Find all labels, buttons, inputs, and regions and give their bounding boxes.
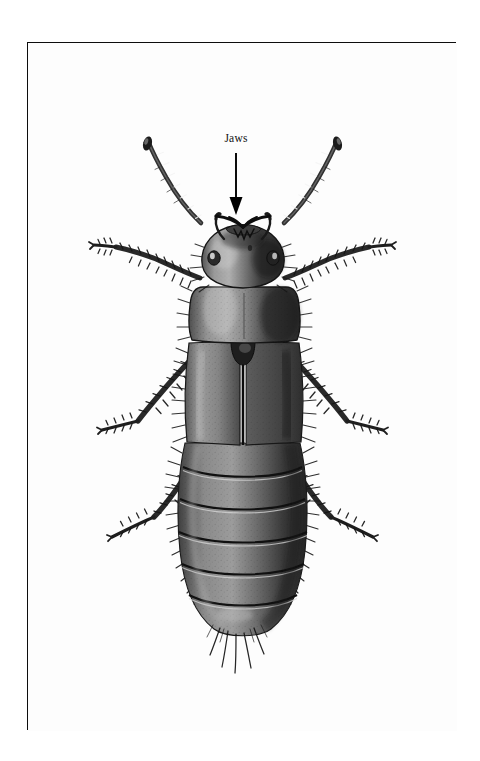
pronotum [177,283,312,343]
right-eye [267,251,279,265]
beetle-illustration: Jaws [28,43,455,729]
illustration-page: Jaws [0,0,480,761]
left-eye [208,251,220,265]
plate-frame: Jaws [27,42,456,730]
elytra [172,336,316,445]
beetle-figure-svg [28,43,457,731]
